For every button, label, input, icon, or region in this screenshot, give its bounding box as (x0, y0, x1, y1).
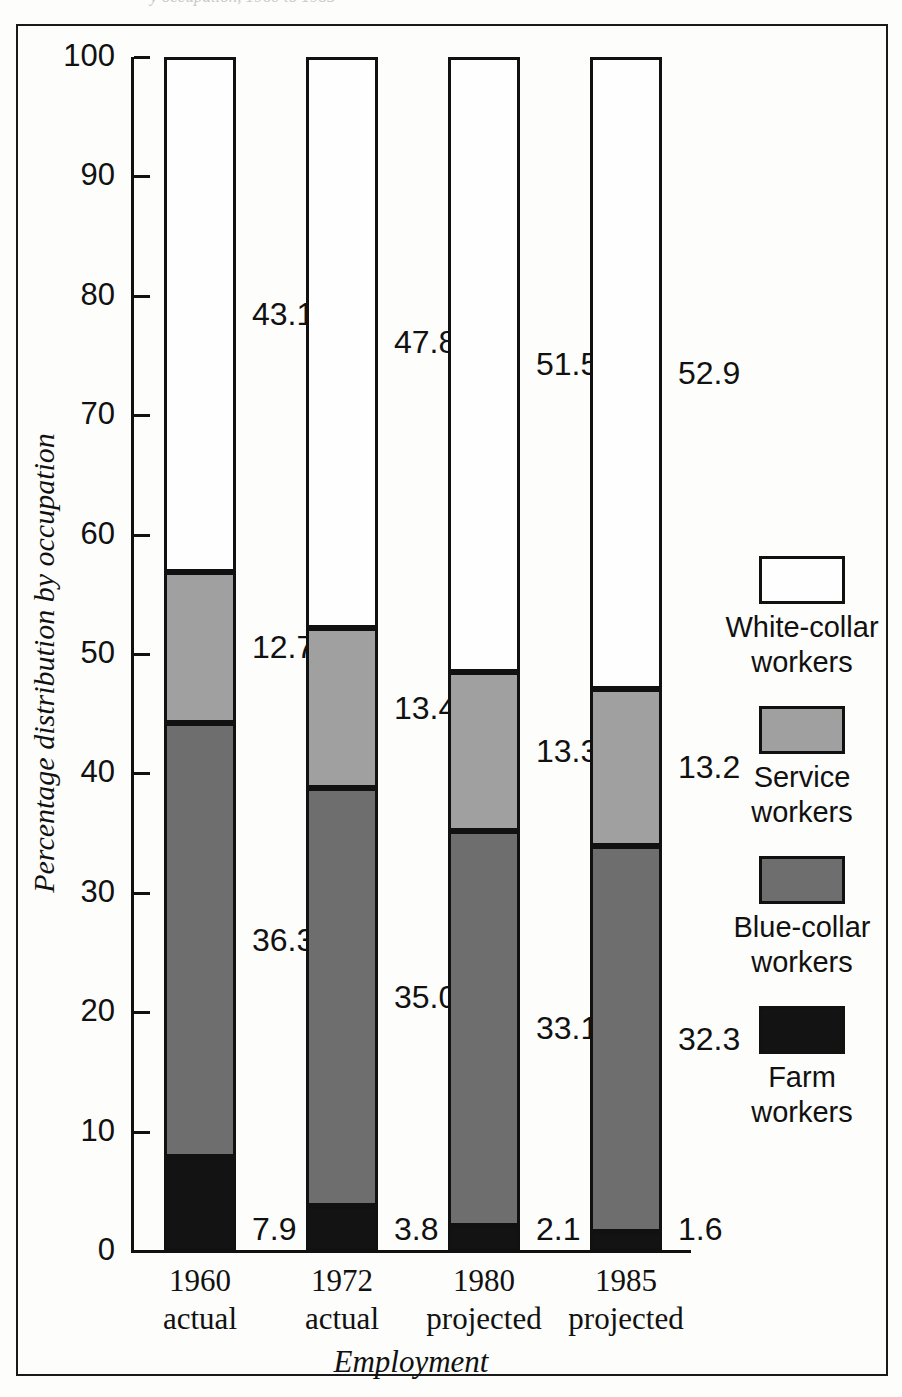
bar-segment-service (306, 628, 378, 788)
y-tick-mark (134, 534, 150, 537)
bar-segment-white (590, 57, 662, 689)
y-tick-mark (134, 1131, 150, 1134)
y-tick-mark (134, 1011, 150, 1014)
y-tick-mark (134, 295, 150, 298)
value-label: 52.9 (678, 357, 740, 389)
value-label: 47.8 (394, 326, 456, 358)
bar-segment-blue (306, 788, 378, 1206)
legend-item-blue: Blue-collarworkers (718, 856, 886, 980)
value-label: 3.8 (394, 1213, 438, 1245)
legend-swatch-blue (759, 856, 845, 904)
bar-segment-blue (164, 723, 236, 1156)
bar-segment-farm (590, 1232, 662, 1251)
legend-swatch-white (759, 556, 845, 604)
legend-item-white: White-collarworkers (718, 556, 886, 680)
legend-label: Service (718, 760, 886, 795)
bar-segment-service (164, 572, 236, 724)
x-category-qualifier: projected (531, 1300, 721, 1338)
stacked-bar (164, 57, 236, 1251)
y-axis-title: Percentage distribution by occupation (27, 163, 61, 1163)
stacked-bar (590, 57, 662, 1251)
y-tick-mark (134, 653, 150, 656)
value-label: 33.1 (536, 1012, 598, 1044)
legend-label: Farm (718, 1060, 886, 1095)
y-tick-label: 100 (43, 40, 115, 71)
value-label: 1.6 (678, 1213, 722, 1245)
bar-segment-blue (590, 846, 662, 1232)
legend-label: White-collar (718, 610, 886, 645)
legend-swatch-farm (759, 1006, 845, 1054)
bar-segment-farm (448, 1226, 520, 1251)
legend-label: workers (718, 945, 886, 980)
y-tick-mark (134, 1250, 150, 1253)
x-category-label: 1985projected (531, 1262, 721, 1338)
value-label: 43.1 (252, 298, 314, 330)
bar-segment-service (448, 672, 520, 831)
value-label: 13.4 (394, 692, 456, 724)
plot-area: 1009080706050403020100 7.936.312.743.13.… (18, 26, 890, 1378)
bar-segment-farm (164, 1157, 236, 1251)
y-tick-mark (134, 414, 150, 417)
stacked-bar (306, 57, 378, 1251)
cropped-title-fragment: y occupation, 1960 to 1985 (0, 0, 902, 18)
bar-segment-white (306, 57, 378, 628)
legend-label: workers (718, 795, 886, 830)
legend-label: workers (718, 1095, 886, 1130)
value-label: 13.3 (536, 735, 598, 767)
legend-item-farm: Farmworkers (718, 1006, 886, 1130)
bar-segment-white (164, 57, 236, 572)
stacked-bar (448, 57, 520, 1251)
bar-segment-farm (306, 1206, 378, 1251)
value-label: 12.7 (252, 631, 314, 663)
bar-segment-blue (448, 831, 520, 1226)
bar-segment-white (448, 57, 520, 672)
y-tick-mark (134, 772, 150, 775)
y-tick-mark (134, 56, 150, 59)
legend-swatch-service (759, 706, 845, 754)
y-tick-mark (134, 175, 150, 178)
x-axis-title: Employment (131, 1344, 691, 1380)
x-category-year: 1985 (531, 1262, 721, 1300)
legend-label: workers (718, 645, 886, 680)
y-tick-label: 0 (43, 1234, 115, 1265)
value-label: 7.9 (252, 1213, 296, 1245)
figure-frame: 1009080706050403020100 7.936.312.743.13.… (16, 24, 888, 1376)
value-label: 2.1 (536, 1213, 580, 1245)
legend-item-service: Serviceworkers (718, 706, 886, 830)
y-tick-mark (134, 892, 150, 895)
legend-label: Blue-collar (718, 910, 886, 945)
value-label: 36.3 (252, 924, 314, 956)
value-label: 35.0 (394, 981, 456, 1013)
value-label: 51.5 (536, 348, 598, 380)
bar-segment-service (590, 689, 662, 847)
chart-legend: White-collarworkersServiceworkersBlue-co… (718, 556, 886, 1156)
